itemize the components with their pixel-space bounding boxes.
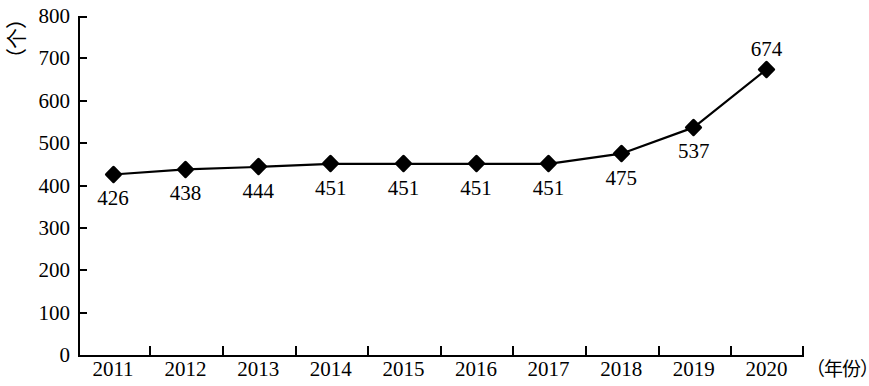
x-axis-end-cap [802,346,804,357]
x-axis-tick-label: 2018 [584,359,658,380]
data-point-marker [757,60,775,78]
data-point-marker [249,158,267,176]
data-point-marker [685,118,703,136]
y-axis-tick-label: 500 [22,133,70,154]
y-axis-tick-label: 700 [22,48,70,69]
x-axis-tick-label: 2015 [366,359,440,380]
data-point-label: 537 [659,141,729,162]
x-axis-tick-label: 2013 [221,359,295,380]
x-axis-tick-label: 2011 [76,359,150,380]
x-axis-tick [512,346,514,356]
y-axis-tick [78,269,87,271]
data-point-label: 674 [731,39,801,60]
y-axis-tick-label: 0 [22,345,70,366]
x-axis-tick [730,346,732,356]
y-axis-tick-label: 600 [22,91,70,112]
data-point-marker [322,155,340,173]
y-axis-tick [78,100,87,102]
data-point-marker [539,155,557,173]
y-axis-tick-labels: 8007006005004003002001000 [22,0,70,386]
x-axis-tick-label: 2012 [149,359,223,380]
x-axis-tick [367,346,369,356]
x-axis-tick [149,346,151,356]
x-axis-tick-label: 2017 [512,359,586,380]
data-point-label: 444 [223,181,293,202]
line-chart: （个） 8007006005004003002001000 2011201220… [0,0,869,386]
data-point-label: 475 [586,168,656,189]
y-axis-top-cap [78,16,87,18]
y-axis-tick [78,185,87,187]
data-point-marker [467,155,485,173]
data-point-marker [394,155,412,173]
data-point-label: 438 [151,183,221,204]
y-axis-tick-label: 200 [22,260,70,281]
data-point-label: 451 [368,178,438,199]
y-axis-tick [78,312,87,314]
y-axis-tick-label: 100 [22,303,70,324]
data-point-marker [104,165,122,183]
data-point-label: 451 [441,178,511,199]
x-axis-tick [222,346,224,356]
x-axis-title: （年份） [806,360,869,379]
x-axis-tick-label: 2016 [439,359,513,380]
y-axis-tick [78,227,87,229]
y-axis-tick [78,142,87,144]
x-axis-tick-label: 2019 [657,359,731,380]
data-point-label: 426 [78,188,148,209]
data-point-label: 451 [296,178,366,199]
data-point-label: 451 [514,178,584,199]
x-axis-tick [295,346,297,356]
x-axis-tick [585,346,587,356]
x-axis-tick [658,346,660,356]
y-axis-tick-label: 300 [22,218,70,239]
x-axis-tick-label: 2020 [729,359,803,380]
y-axis-tick-label: 800 [22,6,70,27]
data-point-marker [176,160,194,178]
x-axis-tick [440,346,442,356]
x-axis-tick-label: 2014 [294,359,368,380]
y-axis-tick [78,57,87,59]
data-point-marker [612,145,630,163]
y-axis-line [78,16,80,357]
y-axis-tick-label: 400 [22,176,70,197]
